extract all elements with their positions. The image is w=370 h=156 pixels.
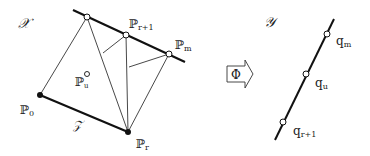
label-qm: qm [336,34,352,49]
label-qr1: qr+1 [293,124,316,139]
space-y-label: 𝒴 [264,14,279,30]
edge-inner-1 [103,35,126,53]
label-pr: ℙr [136,137,149,152]
point-pu [85,72,90,77]
point-pr1 [123,32,129,38]
segment-z [40,95,128,132]
label-pu: ℙu [75,75,89,90]
subspace-z-label: 𝒵 [72,118,85,132]
point-qu [303,71,309,77]
label-pr1: ℙr+1 [129,17,154,32]
label-pm: ℙm [175,38,192,53]
label-p0: ℙ0 [20,103,34,118]
edge-top-pr [87,17,128,132]
mapping-label: Φ [231,68,241,82]
edge-pr1-pr [126,35,128,132]
point-pr [125,129,131,135]
point-qm [324,31,330,37]
point-top [84,14,90,20]
space-x-label: 𝒳 [18,15,34,31]
label-qu: qu [315,76,328,91]
point-pm [166,51,172,57]
point-p0 [37,92,43,98]
diagram-canvas: 𝒳 𝒵 ℙ0 ℙr ℙr+1 ℙm ℙu Φ 𝒴 qm qu qr+1 [0,0,370,156]
point-qr1 [280,119,286,125]
